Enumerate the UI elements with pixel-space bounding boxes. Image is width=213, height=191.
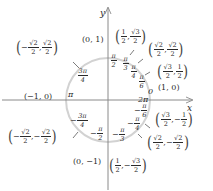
point-label-60deg: ( 12 , √32 ) — [115, 29, 146, 44]
unit-circle-diagram: y x (0, 1) (1, 0) (−1, 0) (0, −1) ( 12 ,… — [0, 0, 213, 191]
fraction-y: √32 — [130, 29, 140, 44]
point-label-neg30deg: ( √32 , − 12 ) — [155, 112, 193, 127]
angle-label-pi: π — [68, 91, 73, 99]
angle-label-pi-over-2: π2 — [110, 53, 117, 68]
angle-label-neg-pi-over-4: − π4 — [127, 116, 141, 131]
angle-label-pi-over-3: π3 — [122, 56, 129, 71]
point-label-135deg: ( − √22 , √22 ) — [16, 40, 58, 55]
point-label-270deg: (0, −1) — [73, 158, 101, 166]
angle-label-pi-over-4: π4 — [130, 64, 137, 79]
angle-label-neg-pi-over-6: − π6 — [134, 103, 148, 118]
y-axis-label: y — [100, 9, 105, 18]
point-label-neg60deg: ( 12 , − √32 ) — [109, 158, 147, 173]
angle-label-zero: 0 — [148, 88, 153, 96]
fraction-x: 12 — [121, 29, 127, 44]
point-label-neg45deg: ( √22 , − √22 ) — [147, 135, 189, 150]
angle-label-neg-three-pi-over-4: − 3π4 — [70, 113, 88, 128]
angle-label-pi-over-6: π6 — [138, 74, 145, 89]
point-label-180deg: (−1, 0) — [24, 93, 52, 101]
point-label-45deg: ( √22 , √22 ) — [148, 42, 183, 57]
point-label-0deg: (1, 0) — [158, 84, 180, 92]
angle-label-three-pi-over-4: 3π4 — [77, 68, 88, 83]
point-label-225deg: ( − √22 , − √22 ) — [8, 129, 57, 144]
angle-label-neg-pi-over-3: − π3 — [112, 127, 126, 142]
angle-label-neg-pi-over-2: − π2 — [90, 126, 104, 141]
point-label-30deg: ( √32 , 12 ) — [157, 64, 188, 79]
point-label-90deg: (0, 1) — [82, 36, 104, 44]
